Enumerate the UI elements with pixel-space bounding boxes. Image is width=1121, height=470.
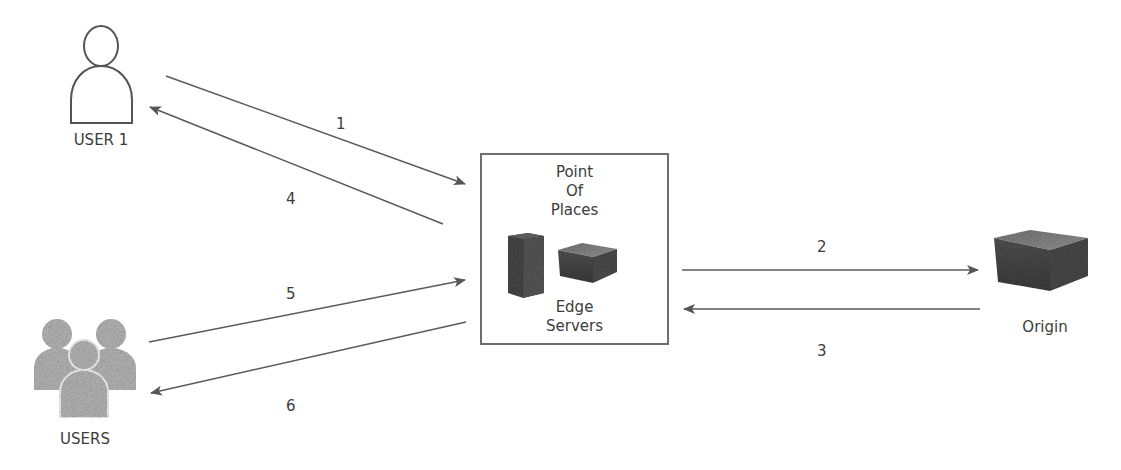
edge-label-1: 1 [336,115,346,133]
pop-title-line-2: Of [482,182,667,201]
point-of-places-box: Point Of Places Edge Servers [480,153,669,345]
origin-server-icon [994,230,1088,291]
edge-label-3: 3 [817,342,827,360]
users-group-icon [34,319,136,418]
arrow-4 [150,107,443,224]
users-label: USERS [40,430,130,448]
pop-title-line-1: Point [482,163,667,182]
user1-label: USER 1 [56,131,146,149]
pop-subtitle-line-2: Servers [482,317,667,336]
pop-subtitle-line-1: Edge [482,298,667,317]
pop-title-line-3: Places [482,201,667,220]
user-outline-icon [71,26,132,123]
origin-label: Origin [1000,318,1090,336]
edge-label-6: 6 [286,397,296,415]
edge-label-4: 4 [286,190,296,208]
edge-label-2: 2 [817,238,827,256]
edge-label-5: 5 [286,285,296,303]
arrow-1 [166,76,465,184]
